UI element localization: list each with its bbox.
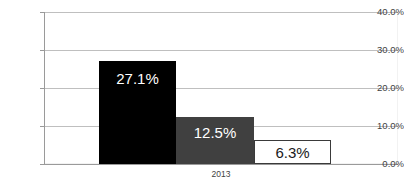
gridline-30 [44,50,398,51]
y-axis-label-30: 30.0% [366,45,404,55]
y-tick-0 [40,164,45,165]
y-axis-label-40: 40.0% [366,7,404,17]
bar-chart: 40.0% 30.0% 20.0% 10.0% 0.0% 27.1% 12.5%… [0,0,404,194]
y-axis-label-20: 20.0% [366,83,404,93]
gridline-20 [44,88,398,89]
bar-label-series-2: 12.5% [176,124,254,141]
y-tick-30 [40,50,45,51]
y-tick-40 [40,12,45,13]
x-axis-category-label: 2013 [44,169,398,179]
y-axis-label-0: 0.0% [366,159,404,169]
gridline-baseline-0 [44,164,398,165]
y-tick-20 [40,88,45,89]
gridline-40 [44,12,398,13]
y-axis-label-10: 10.0% [366,121,404,131]
y-tick-10 [40,126,45,127]
bar-label-series-1: 27.1% [99,70,176,87]
bar-label-series-3: 6.3% [254,144,331,161]
